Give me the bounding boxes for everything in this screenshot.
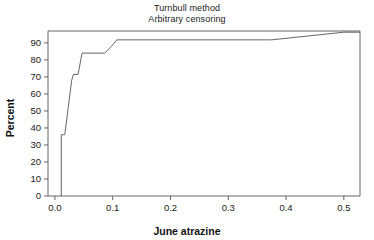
x-axis-ticks: 0.00.10.20.30.40.5 — [48, 196, 350, 213]
y-tick-label: 80 — [30, 54, 41, 65]
data-series-group — [61, 32, 360, 196]
x-tick-label: 0.0 — [48, 202, 61, 213]
x-tick-label: 0.4 — [279, 202, 292, 213]
y-tick-label: 60 — [30, 88, 41, 99]
y-axis-ticks: 0102030405060708090 — [30, 37, 48, 201]
plot-frame — [48, 31, 360, 196]
y-tick-label: 20 — [30, 156, 41, 167]
chart-figure: Turnbull method Arbitrary censoring 0.00… — [0, 0, 374, 240]
x-tick-label: 0.1 — [106, 202, 119, 213]
y-tick-label: 30 — [30, 139, 41, 150]
y-tick-label: 50 — [30, 105, 41, 116]
y-tick-label: 0 — [36, 190, 41, 201]
y-tick-label: 10 — [30, 173, 41, 184]
x-axis-label: June atrazine — [153, 225, 220, 237]
y-tick-label: 70 — [30, 71, 41, 82]
plot-area: 0.00.10.20.30.40.5 0102030405060708090 J… — [0, 0, 374, 240]
y-tick-label: 90 — [30, 37, 41, 48]
y-axis-label: Percent — [4, 98, 16, 137]
x-tick-label: 0.5 — [337, 202, 350, 213]
y-tick-label: 40 — [30, 122, 41, 133]
x-tick-label: 0.2 — [164, 202, 177, 213]
x-tick-label: 0.3 — [222, 202, 235, 213]
step-curve — [61, 32, 360, 196]
